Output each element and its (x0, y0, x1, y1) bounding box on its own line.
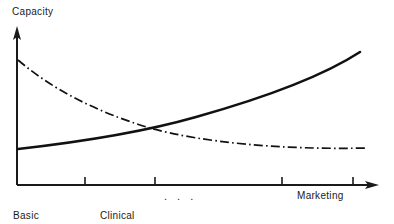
x-tick-label-ellipsis: . . . (164, 191, 197, 201)
series-rising-capacity-line (18, 52, 360, 149)
x-tick-label-basic-research: Basic Research (13, 191, 58, 224)
y-axis-title: Capacity (12, 7, 53, 17)
series-declining-capacity-line (18, 60, 366, 148)
chart-figure: Capacity Basic Research Clinical Testing… (0, 0, 394, 224)
x-tick-label-clinical-testing: Clinical Testing (100, 191, 135, 224)
x-tick-label-marketing: Marketing (297, 191, 344, 201)
x-tick-label-basic-research-line1: Basic (13, 211, 58, 221)
x-tick-label-clinical-testing-line1: Clinical (100, 211, 135, 221)
x-axis-ticks (85, 177, 353, 185)
